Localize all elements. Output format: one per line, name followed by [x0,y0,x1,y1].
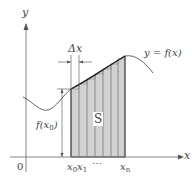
tick-label-xn: xn [120,162,130,174]
y-axis-arrow-icon [24,23,29,30]
region-label-s: S [94,113,102,125]
tick-label-x1: x1 [77,162,87,174]
dx-label: Δx [68,43,82,54]
height-arrow-bottom-icon [61,153,64,157]
diagram-canvas [0,0,193,182]
tick-xn-sub: n [126,166,131,174]
tick-label-x0: x0 [67,162,77,174]
height-label-close: ) [54,119,58,130]
dx-arrow-left-icon [67,61,71,64]
origin-label: 0 [17,162,23,172]
curve-label: y = f(x) [144,48,182,58]
x-axis-label: x [184,150,190,161]
height-label-f: f( [36,119,44,130]
height-label: f(x0) [36,120,58,132]
tick-label-ellipsis: ⋯ [92,159,102,169]
tick-x1-sub: 1 [83,166,87,174]
dx-arrow-right-icon [79,61,83,64]
y-axis-label: y [22,7,28,18]
height-arrow-top-icon [61,89,64,93]
